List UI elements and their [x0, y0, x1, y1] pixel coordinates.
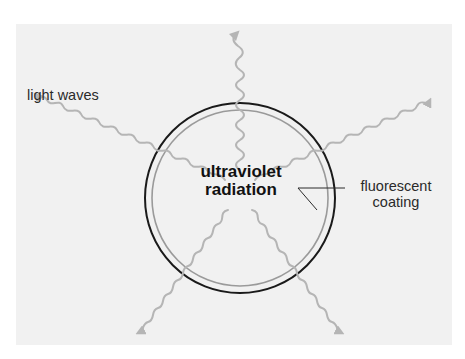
ultraviolet-label-line2: radiation: [178, 181, 304, 199]
wave-up: [233, 34, 244, 170]
light-waves-label: light waves: [27, 87, 99, 103]
fluorescent-pointer-line: [298, 188, 345, 210]
wave-lower-right: [252, 210, 340, 332]
wave-lower-left: [140, 210, 228, 332]
ultraviolet-label-line1: ultraviolet: [178, 163, 304, 181]
fluorescent-label-line2: coating: [350, 194, 442, 210]
fluorescent-label-line1: fluorescent: [350, 178, 442, 194]
ultraviolet-radiation-label: ultraviolet radiation: [178, 163, 304, 199]
fluorescent-coating-label: fluorescent coating: [350, 178, 442, 210]
